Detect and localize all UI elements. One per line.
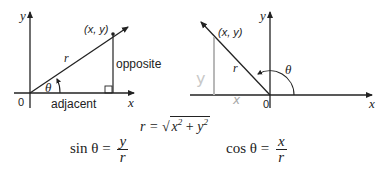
right-angle-mark [105,86,112,93]
left-point-label: (x, y) [84,23,109,35]
sine-numerator: y [117,134,128,150]
radius-lhs: r = [140,119,158,134]
sine-denominator: r [120,150,126,165]
right-point-label: (x, y) [218,26,243,38]
right-y-axis-label: y [258,8,266,23]
sine-fraction: y r [117,134,128,165]
cosine-numerator: x [276,134,287,150]
trig-diagrams: y 0 x (x, y) r θ opposite adjacent y 0 x… [0,0,387,181]
left-theta-label: θ [45,80,52,95]
right-x-axis-label: x [368,96,375,111]
adjacent-label: adjacent [51,97,97,111]
handwritten-x: x [232,93,241,107]
cosine-denominator: r [278,150,284,165]
radius-formula: r = √x2 + y2 [140,116,210,135]
y-exponent: 2 [203,117,208,127]
opposite-label: opposite [116,57,162,71]
left-origin-label: 0 [18,96,24,108]
handwritten-y: y [196,69,205,88]
left-x-axis-label: x [127,95,134,110]
left-y-axis-label: y [18,8,26,23]
right-origin-label: 0 [263,98,269,110]
cosine-lhs: cos θ = [226,140,269,156]
sine-lhs: sin θ = [70,140,111,156]
sqrt-symbol: √ [162,119,170,134]
left-angle-arc [57,79,60,93]
cosine-fraction: x r [276,134,287,165]
plus-sign: + [182,119,197,134]
right-theta-label: θ [285,62,292,77]
sine-formula: sin θ = y r [70,134,128,165]
right-r-label: r [233,61,238,75]
radicand: x2 + y2 [170,116,210,135]
cosine-formula: cos θ = x r [226,134,287,165]
left-r-label: r [64,51,69,65]
